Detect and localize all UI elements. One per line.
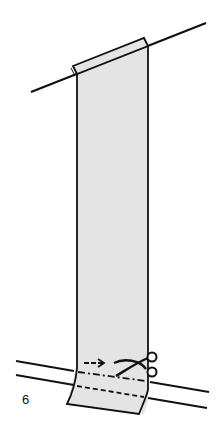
bottom-rod-top-right [150,382,209,392]
bottom-rod-bottom [16,375,74,385]
illustration [0,0,222,442]
fabric-strip [67,47,148,414]
bottom-rod-bottom-right [148,398,207,408]
bottom-rod-top [16,361,74,371]
step-number: 6 [22,392,29,407]
